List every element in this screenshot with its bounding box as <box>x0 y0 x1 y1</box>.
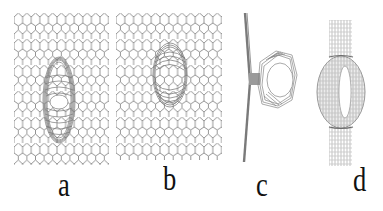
panel-d: d <box>0 0 383 211</box>
panel-label-d: d <box>353 163 366 197</box>
strip-with-torus-d <box>0 0 383 170</box>
